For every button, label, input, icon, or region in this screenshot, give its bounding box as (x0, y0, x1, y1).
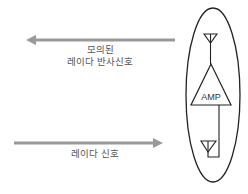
radar-signal-label: 레이다 신호 (55, 148, 135, 160)
amp-label: AMP (196, 92, 226, 102)
transmit-antenna-icon (204, 34, 217, 64)
radar-signal-arrow (14, 138, 163, 148)
receive-antenna-icon (201, 141, 216, 152)
reflected-signal-label-line1: 모의된 (60, 44, 140, 56)
reflected-signal-label-line2: 레이다 반사신호 (50, 56, 150, 68)
